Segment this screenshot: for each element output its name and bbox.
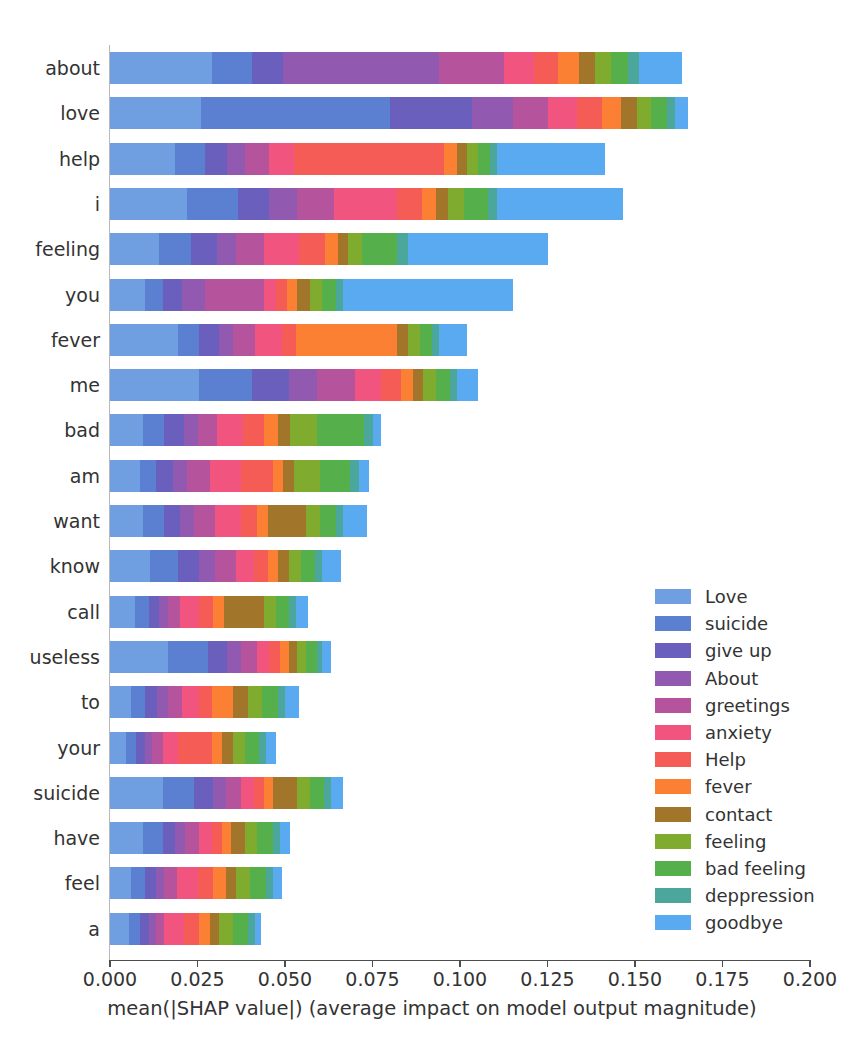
x-tick-mark bbox=[547, 961, 548, 967]
bar-segment bbox=[194, 505, 215, 537]
bar-segment bbox=[264, 414, 278, 446]
bar-segment bbox=[175, 822, 186, 854]
bar-segment bbox=[422, 188, 436, 220]
bar-segment bbox=[198, 867, 214, 899]
bar-segment bbox=[135, 596, 149, 628]
bar-segment bbox=[364, 414, 373, 446]
stacked-bar[interactable] bbox=[110, 414, 381, 446]
stacked-bar[interactable] bbox=[110, 505, 367, 537]
bar-segment bbox=[199, 596, 213, 628]
bar-segment bbox=[320, 460, 350, 492]
stacked-bar[interactable] bbox=[110, 777, 343, 809]
bar-segment bbox=[602, 97, 621, 129]
bar-row: am bbox=[0, 460, 864, 492]
bar-segment bbox=[621, 97, 637, 129]
bar-row: have bbox=[0, 822, 864, 854]
bar-segment bbox=[448, 188, 464, 220]
bar-segment bbox=[264, 777, 273, 809]
bar-segment bbox=[110, 324, 178, 356]
bar-segment bbox=[548, 97, 578, 129]
bar-segment bbox=[110, 233, 159, 265]
bar-segment bbox=[336, 505, 343, 537]
bar-segment bbox=[217, 414, 243, 446]
bar-segment bbox=[184, 414, 198, 446]
bar-segment bbox=[283, 52, 439, 84]
bar-segment bbox=[226, 777, 242, 809]
stacked-bar[interactable] bbox=[110, 686, 299, 718]
bar-segment bbox=[168, 686, 182, 718]
bar-segment bbox=[264, 233, 299, 265]
stacked-bar[interactable] bbox=[110, 732, 276, 764]
stacked-bar[interactable] bbox=[110, 867, 282, 899]
bar-segment bbox=[143, 505, 164, 537]
stacked-bar[interactable] bbox=[110, 52, 682, 84]
bar-segment bbox=[637, 97, 651, 129]
bar-segment bbox=[110, 822, 143, 854]
stacked-bar[interactable] bbox=[110, 97, 688, 129]
bar-segment bbox=[140, 913, 149, 945]
y-axis-tick-label: feel bbox=[0, 867, 100, 899]
bar-segment bbox=[185, 822, 199, 854]
stacked-bar[interactable] bbox=[110, 143, 605, 175]
x-tick-mark bbox=[109, 961, 110, 967]
bar-segment bbox=[205, 279, 265, 311]
bar-segment bbox=[273, 867, 282, 899]
bar-segment bbox=[198, 414, 217, 446]
bar-segment bbox=[269, 143, 294, 175]
bar-segment bbox=[224, 596, 264, 628]
bar-segment bbox=[168, 641, 208, 673]
stacked-bar[interactable] bbox=[110, 913, 261, 945]
bar-segment bbox=[152, 732, 163, 764]
bar-segment bbox=[310, 279, 322, 311]
bar-segment bbox=[285, 686, 299, 718]
stacked-bar[interactable] bbox=[110, 369, 478, 401]
bar-segment bbox=[241, 460, 273, 492]
bar-segment bbox=[439, 324, 467, 356]
y-axis-tick-label: know bbox=[0, 550, 100, 582]
bar-segment bbox=[315, 550, 322, 582]
y-axis-tick-label: your bbox=[0, 732, 100, 764]
stacked-bar[interactable] bbox=[110, 279, 513, 311]
bar-segment bbox=[255, 913, 260, 945]
bar-segment bbox=[252, 52, 284, 84]
bar-segment bbox=[350, 460, 359, 492]
stacked-bar[interactable] bbox=[110, 641, 331, 673]
bar-segment bbox=[248, 686, 262, 718]
bar-segment bbox=[423, 369, 435, 401]
bar-segment bbox=[245, 822, 257, 854]
bar-segment bbox=[297, 188, 334, 220]
bar-segment bbox=[254, 550, 268, 582]
stacked-bar[interactable] bbox=[110, 460, 369, 492]
bar-segment bbox=[241, 777, 253, 809]
stacked-bar[interactable] bbox=[110, 596, 308, 628]
bar-segment bbox=[213, 867, 225, 899]
bar-segment bbox=[164, 867, 176, 899]
bar-segment bbox=[213, 596, 224, 628]
bar-segment bbox=[278, 550, 289, 582]
bar-segment bbox=[255, 324, 281, 356]
bar-segment bbox=[273, 777, 298, 809]
bar-segment bbox=[217, 233, 236, 265]
bar-segment bbox=[233, 324, 256, 356]
bar-segment bbox=[628, 52, 639, 84]
bar-row: to bbox=[0, 686, 864, 718]
stacked-bar[interactable] bbox=[110, 188, 623, 220]
bar-row: want bbox=[0, 505, 864, 537]
bar-segment bbox=[110, 143, 175, 175]
bar-segment bbox=[250, 867, 266, 899]
bar-segment bbox=[212, 686, 233, 718]
bar-segment bbox=[227, 641, 241, 673]
bar-segment bbox=[639, 52, 683, 84]
bar-segment bbox=[257, 641, 269, 673]
bar-segment bbox=[145, 867, 156, 899]
bar-segment bbox=[182, 279, 205, 311]
bar-segment bbox=[110, 505, 143, 537]
bar-segment bbox=[150, 550, 178, 582]
y-axis-tick-label: me bbox=[0, 369, 100, 401]
stacked-bar[interactable] bbox=[110, 324, 467, 356]
bar-segment bbox=[334, 188, 397, 220]
stacked-bar[interactable] bbox=[110, 822, 290, 854]
stacked-bar[interactable] bbox=[110, 550, 341, 582]
stacked-bar[interactable] bbox=[110, 233, 548, 265]
bar-segment bbox=[156, 460, 174, 492]
